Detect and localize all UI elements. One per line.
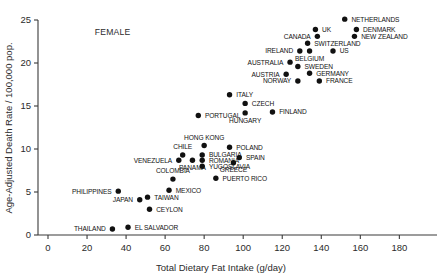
x-tick-label: 180 — [391, 242, 407, 253]
data-point-label: UK — [322, 26, 332, 33]
data-point — [307, 71, 312, 76]
data-point-label: THAILAND — [74, 225, 106, 232]
x-tick-label: 100 — [235, 242, 251, 253]
data-point-label: IRELAND — [265, 47, 293, 54]
data-point-label: COLOMBIA — [156, 167, 191, 174]
data-point — [170, 176, 175, 181]
data-point-label: JAPAN — [113, 196, 134, 203]
chart-annotation: FEMALE — [95, 27, 131, 37]
data-point — [116, 188, 121, 193]
data-point — [196, 113, 201, 118]
data-point — [125, 225, 130, 230]
data-point — [242, 101, 247, 106]
y-axis-title: Age-Adjusted Death Rate / 100,000 pop. — [3, 42, 14, 213]
data-point-label: ITALY — [236, 91, 254, 98]
x-tick-label: 60 — [160, 242, 171, 253]
y-tick-label: 25 — [20, 14, 31, 25]
data-point-label: VENEZUELA — [134, 157, 173, 164]
data-point — [354, 27, 359, 32]
data-point — [283, 71, 288, 76]
data-point-label: HONG KONG — [184, 134, 224, 141]
x-tick-label: 120 — [274, 242, 290, 253]
data-point — [180, 152, 185, 157]
data-point-label: YUGOSLAVIA — [209, 163, 251, 170]
x-tick-label: 20 — [82, 242, 93, 253]
data-point-label: GERMANY — [316, 70, 349, 77]
data-point — [330, 48, 335, 53]
data-point — [295, 64, 300, 69]
data-point-label: CZECH — [252, 100, 275, 107]
data-point-label: CHILE — [173, 143, 193, 150]
x-tick-label: 140 — [313, 242, 329, 253]
data-point — [242, 110, 247, 115]
chart-annotations: FEMALE — [95, 27, 131, 37]
data-point-label: FRANCE — [326, 77, 353, 84]
data-point-label: CANADA — [284, 33, 312, 40]
data-point — [305, 41, 310, 46]
data-point — [213, 176, 218, 181]
x-tick-label: 0 — [45, 242, 50, 253]
x-tick-label: 160 — [352, 242, 368, 253]
data-point — [295, 78, 300, 83]
data-point-label: MEXICO — [176, 187, 201, 194]
data-point — [317, 78, 322, 83]
data-point-label: HUNGARY — [229, 117, 262, 124]
data-point — [270, 109, 275, 114]
data-point-label: POLAND — [236, 144, 263, 151]
data-point-label: NEW ZEALAND — [361, 33, 408, 40]
x-tick-label: 80 — [199, 242, 210, 253]
data-point — [352, 34, 357, 39]
data-point — [227, 92, 232, 97]
data-point-labels: NETHERLANDSUKDENMARKCANADANEW ZEALANDSWI… — [72, 16, 408, 233]
data-point — [227, 145, 232, 150]
data-point-label: PUERTO RICO — [223, 175, 267, 182]
data-point-label: SWITZERLAND — [314, 40, 360, 47]
y-tick-label: 10 — [20, 143, 31, 154]
data-point — [166, 188, 171, 193]
data-point — [201, 143, 206, 148]
data-point — [287, 59, 292, 64]
data-point-label: PHILIPPINES — [72, 188, 112, 195]
data-point — [200, 152, 205, 157]
chart-figure: 0510152025020406080100120140160180 NETHE… — [0, 0, 443, 276]
data-point — [313, 27, 318, 32]
y-tick-label: 5 — [26, 186, 31, 197]
data-point — [200, 157, 205, 162]
data-points — [110, 16, 359, 231]
data-point-label: FINLAND — [279, 108, 307, 115]
data-point — [147, 207, 152, 212]
data-point-label: US — [340, 47, 350, 54]
y-tick-label: 0 — [26, 229, 31, 240]
data-point-label: NORWAY — [263, 77, 292, 84]
data-point — [145, 194, 150, 199]
y-tick-label: 20 — [20, 57, 31, 68]
data-point — [137, 197, 142, 202]
data-point-label: BELGIUM — [295, 55, 324, 62]
data-point-label: NETHERLANDS — [351, 16, 400, 23]
data-point — [190, 157, 195, 162]
data-point — [342, 16, 347, 21]
axes — [38, 20, 437, 235]
data-point-label: EL SALVADOR — [135, 224, 179, 231]
x-tick-label: 40 — [121, 242, 132, 253]
data-point — [315, 34, 320, 39]
data-point — [307, 48, 312, 53]
data-point-label: TAIWAN — [154, 194, 179, 201]
data-point-label: AUSTRALIA — [248, 59, 284, 66]
scatter-plot: 0510152025020406080100120140160180 NETHE… — [0, 0, 443, 276]
data-point — [110, 226, 115, 231]
data-point-label: SPAIN — [246, 154, 265, 161]
data-point — [176, 157, 181, 162]
x-axis-title: Total Dietary Fat Intake (g/day) — [156, 262, 286, 273]
y-tick-label: 15 — [20, 100, 31, 111]
data-point-label: CEYLON — [156, 206, 183, 213]
data-point — [297, 48, 302, 53]
